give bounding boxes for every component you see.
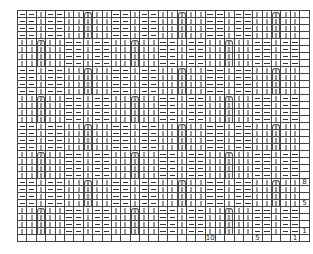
knit-stitch-cell	[64, 74, 73, 81]
knit-stitch-cell	[205, 102, 215, 109]
column-number-label	[243, 235, 252, 242]
knit-stitch-cell	[272, 39, 281, 46]
knit-stitch-cell	[168, 186, 177, 193]
cable-stitch-cell	[36, 53, 45, 60]
knit-stitch-cell	[196, 88, 205, 95]
purl-stitch-cell	[55, 67, 64, 74]
knit-stitch-cell	[27, 207, 36, 214]
cable-stitch-cell	[36, 46, 45, 53]
knit-stitch-cell	[149, 39, 158, 46]
purl-stitch-cell	[243, 67, 252, 74]
knit-stitch-cell	[55, 39, 64, 46]
purl-stitch-cell	[46, 11, 55, 18]
knit-stitch-cell	[196, 81, 205, 88]
knit-stitch-cell	[93, 193, 102, 200]
knit-stitch-cell	[102, 130, 111, 137]
knit-stitch-cell	[55, 165, 64, 172]
column-number-label	[187, 235, 196, 242]
knit-stitch-cell	[121, 151, 130, 158]
knit-stitch-cell	[18, 214, 27, 221]
knit-stitch-cell	[290, 179, 299, 186]
knit-stitch-cell	[177, 172, 186, 179]
knit-stitch-cell	[281, 18, 290, 25]
purl-stitch-cell	[262, 228, 271, 235]
knit-stitch-cell	[18, 102, 27, 109]
row-number-label	[300, 214, 309, 221]
purl-stitch-cell	[158, 95, 167, 102]
purl-stitch-cell	[234, 193, 243, 200]
knit-stitch-cell	[215, 151, 224, 158]
purl-stitch-cell	[281, 95, 290, 102]
knit-stitch-cell	[140, 116, 149, 123]
purl-stitch-cell	[262, 60, 271, 67]
purl-stitch-cell	[140, 200, 149, 207]
column-number-label: 1	[290, 235, 299, 242]
purl-stitch-cell	[140, 130, 149, 137]
knit-stitch-cell	[225, 200, 234, 207]
purl-stitch-cell	[74, 60, 83, 67]
purl-stitch-cell	[121, 123, 130, 130]
knit-stitch-cell	[27, 95, 36, 102]
purl-stitch-cell	[262, 207, 271, 214]
knit-stitch-cell	[158, 137, 167, 144]
cable-stitch-cell	[272, 123, 281, 130]
purl-stitch-cell	[93, 214, 102, 221]
knit-stitch-cell	[46, 221, 55, 228]
cable-stitch-cell	[225, 116, 234, 123]
row-number-label	[300, 151, 309, 158]
chart-row	[18, 151, 310, 158]
purl-stitch-cell	[253, 116, 262, 123]
purl-stitch-cell	[27, 200, 36, 207]
purl-stitch-cell	[140, 123, 149, 130]
purl-stitch-cell	[27, 25, 36, 32]
knit-stitch-cell	[36, 25, 45, 32]
knit-stitch-cell	[130, 81, 139, 88]
knit-stitch-cell	[187, 130, 196, 137]
knit-stitch-cell	[225, 25, 234, 32]
purl-stitch-cell	[290, 102, 299, 109]
cable-stitch-cell	[225, 53, 234, 60]
purl-stitch-cell	[234, 130, 243, 137]
purl-stitch-cell	[18, 130, 27, 137]
purl-stitch-cell	[234, 67, 243, 74]
knit-stitch-cell	[253, 81, 262, 88]
knit-stitch-cell	[158, 130, 167, 137]
knit-stitch-cell	[272, 102, 281, 109]
purl-stitch-cell	[18, 81, 27, 88]
purl-stitch-cell	[140, 74, 149, 81]
purl-stitch-cell	[215, 193, 224, 200]
purl-stitch-cell	[196, 172, 205, 179]
knit-stitch-cell	[234, 214, 243, 221]
purl-stitch-cell	[111, 81, 120, 88]
purl-stitch-cell	[168, 228, 177, 235]
knit-stitch-cell	[177, 207, 186, 214]
cable-stitch-cell	[130, 102, 139, 109]
chart-row	[18, 95, 310, 102]
cable-stitch-cell	[225, 60, 234, 67]
knit-stitch-cell	[130, 67, 139, 74]
purl-stitch-cell	[93, 39, 102, 46]
purl-stitch-cell	[168, 172, 177, 179]
purl-stitch-cell	[215, 179, 224, 186]
row-number-label	[300, 88, 309, 95]
knit-stitch-cell	[158, 123, 167, 130]
knit-stitch-cell	[102, 123, 111, 130]
purl-stitch-cell	[93, 95, 102, 102]
purl-stitch-cell	[290, 158, 299, 165]
purl-stitch-cell	[196, 116, 205, 123]
purl-stitch-cell	[55, 144, 64, 151]
knit-stitch-cell	[290, 186, 299, 193]
purl-stitch-cell	[140, 32, 149, 39]
cable-stitch-cell	[36, 221, 45, 228]
purl-stitch-cell	[234, 74, 243, 81]
purl-stitch-cell	[253, 158, 262, 165]
knit-stitch-cell	[36, 186, 45, 193]
cable-stitch-cell	[225, 39, 234, 46]
purl-stitch-cell	[215, 200, 224, 207]
purl-stitch-cell	[55, 179, 64, 186]
row-number-label	[300, 95, 309, 102]
cable-stitch-cell	[130, 53, 139, 60]
knit-stitch-cell	[177, 221, 186, 228]
cable-stitch-cell	[83, 179, 92, 186]
cable-stitch-cell	[130, 109, 139, 116]
